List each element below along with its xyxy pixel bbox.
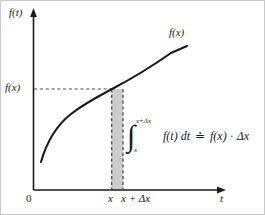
shaded-strip-region [112, 89, 124, 190]
integral-operator: ∫ x+Δx x [127, 117, 153, 155]
y-axis-arrowhead [30, 8, 37, 17]
plot-canvas [1, 1, 265, 215]
x-axis-label: t [220, 193, 223, 204]
y-axis-label: f(t) [9, 7, 22, 18]
multiplication-dot: · [230, 129, 234, 144]
integral-formula: ∫ x+Δx x f(t) dt ≐ f(x) · Δx [127, 117, 249, 155]
formula-right-side-fx: f(x) [210, 129, 227, 144]
x-axis-tick-label-x: x [108, 193, 113, 204]
formula-right-side-delta-x: Δx [237, 129, 249, 144]
integral-approximation-figure: f(t) t 0 f(x) x x + Δx f(x) ∫ x+Δx x f(t… [0, 0, 265, 215]
integral-lower-limit: x [134, 146, 137, 154]
x-axis-tick-label-x-plus-delta-x: x + Δx [121, 193, 150, 204]
integral-integrand: f(t) dt [163, 129, 190, 144]
approx-equal-sign: ≐ [195, 129, 205, 144]
curve-label: f(x) [169, 27, 184, 38]
y-axis-tick-label-fx: f(x) [5, 82, 20, 93]
origin-label: 0 [26, 193, 32, 204]
integral-upper-limit: x+Δx [136, 117, 151, 125]
